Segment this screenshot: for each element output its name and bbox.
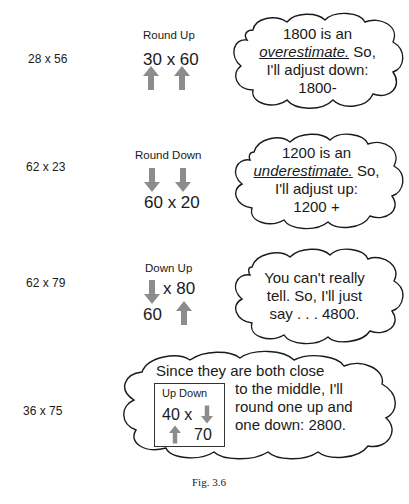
down-arrow-icon xyxy=(201,405,213,424)
down-arrow-icon xyxy=(144,280,160,304)
problem-4: 36 x 75 xyxy=(23,404,62,418)
thought-cloud-3: You can't really tell. So, I'll just say… xyxy=(222,245,407,345)
second-rounded-3: x 80 xyxy=(163,279,195,299)
thought-line: I'll adjust up: xyxy=(224,180,409,198)
thought-line: overestimate. So, xyxy=(225,43,409,61)
emphasis-overestimate: overestimate. xyxy=(259,43,349,60)
thought-line: You can't really xyxy=(222,269,407,287)
thought-line-rest: So, xyxy=(353,162,380,179)
strategy-label-round-down: Round Down xyxy=(135,149,201,161)
thought-line: tell. So, I'll just xyxy=(222,287,407,305)
thought-line: 1800 is an xyxy=(225,25,409,43)
thought-line: I'll adjust down: xyxy=(225,61,409,79)
problem-2: 62 x 23 xyxy=(26,160,65,174)
up-arrow-icon xyxy=(176,301,192,325)
first-rounded-4: 40 x xyxy=(162,406,192,424)
strategy-label-down-up: Down Up xyxy=(145,262,192,274)
strategy-label-up-down: Up Down xyxy=(162,387,207,399)
thought-text-2: 1200 is an underestimate. So, I'll adjus… xyxy=(224,144,409,216)
thought-line: one down: 2800. xyxy=(235,416,353,434)
thought-line: 1200 + xyxy=(224,198,409,216)
strategy-label-round-up: Round Up xyxy=(143,29,195,41)
thought-line-rest: So, xyxy=(349,43,376,60)
up-arrow-icon xyxy=(143,66,159,90)
thought-line-1: Since they are both close xyxy=(156,362,324,380)
rounded-problem-2: 60 x 20 xyxy=(144,193,200,213)
problem-3: 62 x 79 xyxy=(26,276,65,290)
thought-line: 1200 is an xyxy=(224,144,409,162)
up-arrow-icon xyxy=(174,66,190,90)
thought-line: round one up and xyxy=(235,398,353,416)
first-rounded-3: 60 xyxy=(143,305,162,325)
thought-line: underestimate. So, xyxy=(224,162,409,180)
thought-cloud-2: 1200 is an underestimate. So, I'll adjus… xyxy=(224,128,409,233)
down-arrow-icon xyxy=(175,168,191,192)
thought-cloud-1: 1800 is an overestimate. So, I'll adjust… xyxy=(225,8,409,113)
thought-text-3: You can't really tell. So, I'll just say… xyxy=(222,269,407,323)
second-rounded-4: 70 xyxy=(194,426,212,444)
thought-text-1: 1800 is an overestimate. So, I'll adjust… xyxy=(225,25,409,97)
figure-caption: Fig. 3.6 xyxy=(192,476,226,488)
thought-line: 1800- xyxy=(225,79,409,97)
thought-cloud-4: Since they are both close to the middle,… xyxy=(118,350,403,462)
up-arrow-icon xyxy=(169,425,181,444)
thought-text-4: to the middle, I'll round one up and one… xyxy=(235,380,353,434)
down-arrow-icon xyxy=(144,168,160,192)
emphasis-underestimate: underestimate. xyxy=(254,162,353,179)
thought-line: say . . . 4800. xyxy=(222,305,407,323)
thought-line: to the middle, I'll xyxy=(235,380,353,398)
problem-1: 28 x 56 xyxy=(28,52,67,66)
